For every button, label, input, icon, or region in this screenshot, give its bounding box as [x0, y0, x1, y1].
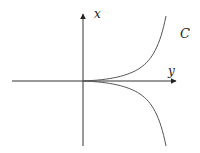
- horizontal-axis-label: y: [167, 64, 175, 78]
- curve-lower-branch: [83, 81, 166, 146]
- cusp-diagram: x y C: [0, 0, 200, 153]
- curve-upper-branch: [83, 16, 166, 81]
- vertical-axis-label: x: [94, 7, 101, 21]
- curve-label: C: [180, 26, 190, 41]
